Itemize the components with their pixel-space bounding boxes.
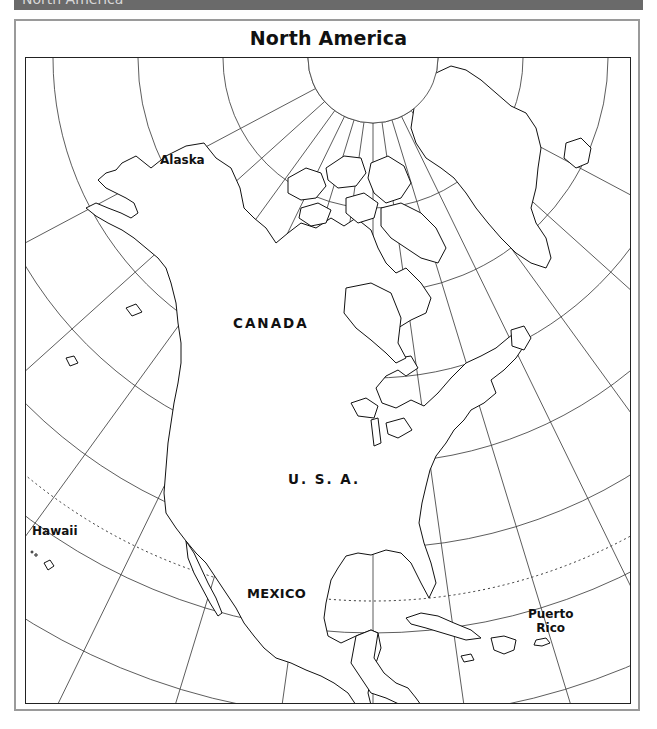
coastlines — [31, 66, 591, 704]
label-hawaii: Hawaii — [32, 524, 78, 538]
label-puerto-rico: Puerto Rico — [528, 607, 573, 635]
label-usa: U. S. A. — [288, 471, 360, 487]
banner-text: North America — [22, 0, 123, 7]
map-canvas: Alaska CANADA U. S. A. Hawaii MEXICO Pue… — [25, 57, 631, 704]
map-title: North America — [0, 27, 657, 49]
arctic-island — [299, 203, 331, 226]
newfoundland-outline — [511, 326, 531, 350]
arctic-island — [326, 156, 366, 188]
section-banner: North America — [14, 0, 643, 10]
cuba-outline — [406, 613, 481, 640]
baffin-island — [381, 203, 446, 263]
hawaii-island — [31, 551, 33, 553]
puerto-rico-outline — [534, 638, 550, 646]
aleutian-island — [126, 304, 142, 316]
label-canada: CANADA — [233, 315, 309, 331]
arctic-island — [288, 168, 326, 200]
label-alaska: Alaska — [160, 153, 205, 167]
hawaii-island — [35, 554, 37, 556]
aleutian-island — [66, 356, 78, 366]
iceland-outline — [564, 138, 591, 168]
mainland-outline — [86, 143, 526, 704]
hawaii-island — [44, 560, 54, 570]
hispaniola-outline — [491, 636, 516, 654]
label-mexico: MEXICO — [247, 586, 306, 601]
label-puerto-rico-line2: Rico — [528, 621, 573, 635]
label-puerto-rico-line1: Puerto — [528, 607, 573, 621]
arctic-island — [368, 156, 411, 203]
jamaica-outline — [461, 654, 474, 662]
